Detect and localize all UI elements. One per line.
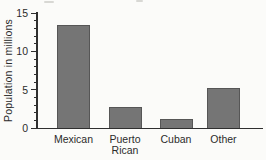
y-minor-tick — [34, 28, 37, 29]
x-label-cuban: Cuban — [149, 134, 203, 145]
scan-artifact — [136, 0, 143, 2]
bar-mexican — [57, 25, 90, 129]
y-major-tick — [31, 128, 37, 129]
y-major-tick — [31, 51, 37, 52]
y-axis-line — [36, 12, 38, 129]
y-minor-tick — [34, 66, 37, 67]
y-axis-label: Population in millions — [2, 11, 15, 131]
y-minor-tick — [34, 36, 37, 37]
bar-other — [207, 88, 240, 128]
y-major-tick — [31, 89, 37, 90]
x-label-other: Other — [197, 134, 251, 145]
bar-puerto-rican — [109, 107, 142, 128]
y-minor-tick — [34, 74, 37, 75]
y-minor-tick — [34, 112, 37, 113]
x-label-mexican: Mexican — [47, 134, 101, 145]
y-tick-label: 5 — [4, 84, 28, 96]
y-tick-label: 0 — [4, 122, 28, 134]
x-label-puerto-rican: Puerto Rican — [98, 134, 152, 156]
bar-cuban — [160, 119, 193, 128]
y-minor-tick — [34, 43, 37, 44]
y-minor-tick — [34, 82, 37, 83]
y-minor-tick — [34, 97, 37, 98]
y-tick-label: 10 — [4, 45, 28, 57]
bar-chart: Population in millions 051015 MexicanPue… — [0, 0, 266, 160]
scan-artifact — [44, 1, 54, 3]
y-major-tick — [31, 13, 37, 14]
y-tick-label: 15 — [4, 7, 28, 19]
y-minor-tick — [34, 20, 37, 21]
y-minor-tick — [34, 105, 37, 106]
y-minor-tick — [34, 59, 37, 60]
y-minor-tick — [34, 120, 37, 121]
